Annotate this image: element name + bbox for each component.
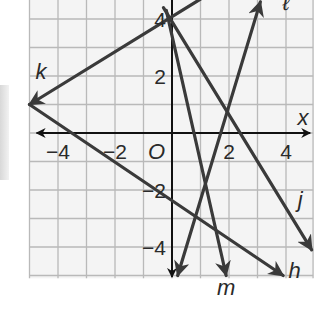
y-tick-label: 2 [154,65,166,88]
line-label-m: m [217,275,235,300]
y-tick-label: −4 [142,236,166,259]
line-label-k: k [35,59,47,84]
x-tick-label: 4 [280,140,292,163]
x-tick-label: −2 [103,140,127,163]
line-label-l: ℓ [281,0,290,15]
y-tick-label: 4 [154,8,166,31]
x-axis-label: x [296,105,309,130]
coordinate-graph: −4−22442−2−4xOkhℓmj [0,0,331,335]
x-tick-label: −4 [46,140,70,163]
x-tick-label: 2 [223,140,235,163]
y-tick-label: −2 [142,179,166,202]
origin-label: O [148,139,165,164]
line-label-h: h [288,258,300,283]
